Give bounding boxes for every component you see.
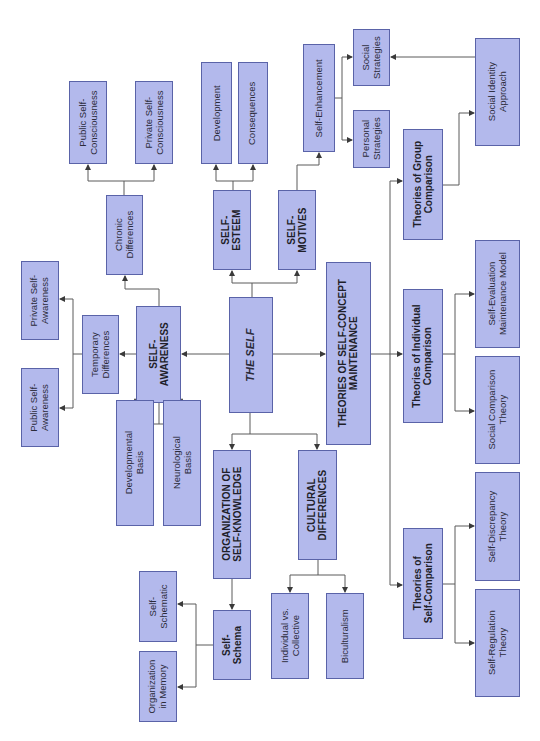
node-label: Personal Strategies	[361, 118, 382, 161]
node-chronic-differences: Chronic Differences	[106, 195, 143, 275]
node-self-schematic: Self- Schematic	[139, 571, 177, 642]
node-social-comparison-theory: Social Comparison Theory	[475, 356, 520, 464]
node-label: Chronic Differences	[114, 211, 135, 259]
node-self-regulation-theory: Self-Regulation Theory	[475, 589, 520, 697]
node-organization-in-memory: Organization in Memory	[139, 651, 177, 722]
node-self-evaluation-maintenance-model: Self-Evaluation Maintenance Model	[475, 240, 520, 348]
node-label: Self-Discrepancy Theory	[487, 491, 508, 563]
node-label: Biculturalism	[340, 609, 351, 663]
node-public-self-consciousness: Public Self- Consciousness	[69, 81, 107, 164]
node-temporary-differences: Temporary Differences	[82, 315, 119, 394]
node-individual-vs-collective: Individual vs. Collective	[271, 593, 309, 679]
node-label: Social Identity Approach	[487, 62, 508, 121]
node-label: Organization in Memory	[147, 660, 168, 714]
node-label: Self-Enhancement	[314, 59, 325, 137]
node-label: Public Self- Awareness	[29, 383, 50, 431]
node-label: THE SELF	[245, 328, 257, 381]
node-theories-of-group-comparison: Theories of Group Comparison	[403, 129, 443, 240]
node-self-motives: SELF- MOTIVES	[278, 190, 316, 270]
node-developmental-basis: Developmental Basis	[116, 400, 154, 526]
node-label: Public Self- Consciousness	[77, 90, 98, 154]
node-personal-strategies: Personal Strategies	[353, 110, 390, 168]
node-label: CULTURAL DIFFERENCES	[306, 470, 328, 541]
node-label: Private Self- Consciousness	[143, 90, 164, 154]
node-biculturalism: Biculturalism	[326, 593, 364, 679]
node-label: Neurological Basis	[171, 437, 192, 490]
node-development: Development	[201, 62, 232, 164]
node-self-awareness: SELF- AWARENESS	[136, 306, 181, 403]
node-label: SELF- AWARENESS	[147, 323, 169, 387]
node-label: Individual vs. Collective	[279, 609, 300, 664]
node-cultural-differences: CULTURAL DIFFERENCES	[298, 450, 337, 560]
node-label: Self- Schematic	[147, 584, 168, 628]
self-concept-diagram: THE SELF SELF- AWARENESS Temporary Diffe…	[0, 0, 540, 741]
node-self-discrepancy-theory: Self-Discrepancy Theory	[475, 472, 520, 581]
node-label: Consequences	[248, 81, 259, 144]
node-private-self-consciousness: Private Self- Consciousness	[135, 81, 173, 164]
node-label: SELF- MOTIVES	[286, 207, 308, 252]
node-label: ORGANIZATION OF SELF-KNOWLEDGE	[221, 467, 243, 562]
node-label: Self- Schema	[221, 626, 243, 664]
node-the-self: THE SELF	[229, 297, 273, 413]
node-label: Theories of Self-Comparison	[412, 543, 434, 623]
node-label: Self-Regulation Theory	[487, 611, 508, 676]
node-self-enhancement: Self-Enhancement	[303, 44, 335, 152]
node-neurological-basis: Neurological Basis	[163, 400, 201, 526]
node-label: Theories of Individual Comparison	[412, 304, 434, 407]
node-self-schema: Self- Schema	[213, 610, 251, 680]
node-label: Development	[211, 85, 222, 141]
node-self-esteem: SELF- ESTEEM	[213, 190, 251, 270]
node-theories-of-self-concept-maintenance: THEORIES OF SELF-CONCEPT MAINTENANCE	[326, 262, 371, 445]
node-label: Theories of Group Comparison	[412, 141, 434, 228]
node-theories-of-self-comparison: Theories of Self-Comparison	[403, 528, 443, 639]
node-label: Social Comparison Theory	[487, 370, 508, 450]
node-label: Private Self- Awareness	[29, 275, 50, 327]
node-public-self-awareness: Public Self- Awareness	[21, 368, 59, 447]
node-social-strategies: Social Strategies	[353, 29, 390, 86]
node-label: SELF- ESTEEM	[221, 209, 243, 250]
node-label: Self-Evaluation Maintenance Model	[487, 253, 508, 336]
node-consequences: Consequences	[238, 62, 268, 164]
node-label: Social Strategies	[361, 36, 382, 79]
node-private-self-awareness: Private Self- Awareness	[21, 261, 59, 340]
node-label: Temporary Differences	[90, 331, 111, 379]
node-organization-of-self-knowledge: ORGANIZATION OF SELF-KNOWLEDGE	[213, 450, 251, 579]
node-social-identity-approach: Social Identity Approach	[475, 38, 520, 146]
node-theories-of-individual-comparison: Theories of Individual Comparison	[403, 289, 443, 423]
node-label: THEORIES OF SELF-CONCEPT MAINTENANCE	[337, 279, 359, 427]
node-label: Developmental Basis	[124, 431, 145, 494]
